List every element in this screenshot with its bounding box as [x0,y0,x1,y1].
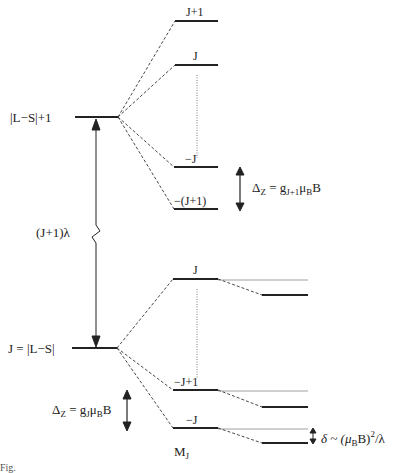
sublevel-label-j-plus-1: J+1 [186,6,203,18]
shifted-levels [218,279,308,443]
upper-zeeman-formula: ΔZ = gJ+1μBB [252,181,321,197]
lower-zeeman-formula: ΔZ = gJμBB [52,403,111,419]
delta-arrow [310,428,316,444]
lower-level-label: J = |L−S| [8,342,55,355]
lower-connectors [117,279,173,428]
sublevel-label-minus-j-upper: −J [185,153,196,165]
sublevel-label-minus-j-plus-one: −J+1 [174,376,198,388]
figure-caption: Fig. [0,462,16,473]
sublevel-label-j-lower: J [193,264,198,276]
mj-label: MJ [174,445,189,461]
upper-level-label: |L−S|+1 [10,111,52,124]
sublevel-label-minus-j-plus-1: −(J+1) [174,195,206,207]
lower-sublevels [173,279,218,428]
second-order-shift-formula: δ ~ (μBB)2/λ [321,430,385,448]
sublevel-label-minus-j-lower: −J [186,414,197,426]
upper-connectors [118,21,175,209]
lower-zeeman-arrow [123,390,131,431]
gap-label: (J+1)λ [36,226,70,239]
sublevel-label-j-upper: J [193,50,198,62]
gap-arrow [92,119,100,347]
upper-zeeman-arrow [236,167,244,211]
